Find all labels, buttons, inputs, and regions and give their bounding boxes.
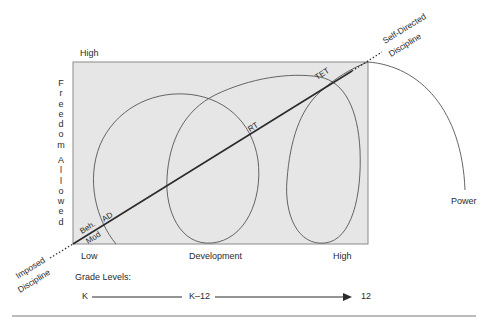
y-title-char: l xyxy=(56,176,66,186)
power-curve xyxy=(368,62,465,190)
y-title-char: m xyxy=(56,140,66,150)
grade-arrowhead-icon xyxy=(343,293,352,301)
y-title-char: o xyxy=(56,186,66,196)
diagram-canvas: Beh. Mod AD RT TET Imposed Discipline Se… xyxy=(0,0,488,324)
y-axis-high-label: High xyxy=(80,49,99,58)
y-title-char: e xyxy=(56,99,66,109)
grade-middle-label: K–12 xyxy=(189,292,210,301)
y-title-char: o xyxy=(56,129,66,139)
y-title-char: d xyxy=(56,217,66,227)
grade-end-label: 12 xyxy=(361,292,371,301)
x-axis-high-label: High xyxy=(333,252,352,261)
x-axis-title: Development xyxy=(189,252,242,261)
y-axis-title-allowed: A l l o w e d xyxy=(56,155,66,227)
grade-start-label: K xyxy=(82,292,88,301)
x-axis-low-label: Low xyxy=(81,252,98,261)
grade-levels-title: Grade Levels: xyxy=(75,273,131,282)
y-axis-title-freedom: F r e e d o m xyxy=(56,78,66,150)
discipline-diagram: Beh. Mod AD RT TET Imposed Discipline Se… xyxy=(0,0,488,324)
y-title-char: F xyxy=(56,78,66,88)
y-title-char: e xyxy=(56,206,66,216)
power-label: Power xyxy=(451,197,477,206)
y-title-char: l xyxy=(56,165,66,175)
y-title-char: e xyxy=(56,109,66,119)
y-title-char: r xyxy=(56,88,66,98)
y-title-char: A xyxy=(56,155,66,165)
y-title-char: w xyxy=(56,196,66,206)
imposed-dotted-line xyxy=(50,244,73,258)
y-title-char: d xyxy=(56,119,66,129)
